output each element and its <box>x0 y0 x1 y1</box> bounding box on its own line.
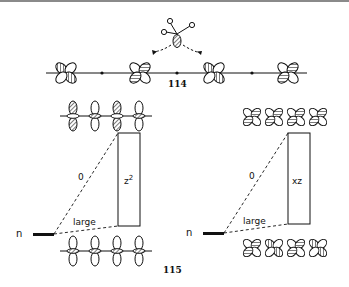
overlap-zero-right: 0 <box>249 172 255 181</box>
overlap-large-right: large <box>243 217 266 226</box>
overlap-zero-left: 0 <box>78 173 84 182</box>
ligand-fragment <box>161 18 194 47</box>
z2-orbital-row-top <box>60 101 152 131</box>
level-label-left: n <box>16 229 22 239</box>
n-level-left <box>33 233 54 236</box>
overlap-large-left: large <box>73 218 96 227</box>
figure-label-114: 114 <box>168 80 187 89</box>
xz-orbital-row-top <box>242 107 329 128</box>
box-label-z2-sup: 2 <box>129 174 133 182</box>
level-label-right: n <box>186 228 192 238</box>
box-label-xz: xz <box>292 177 302 186</box>
orbital-diagram <box>0 0 349 287</box>
xz-orbital-row-bottom <box>242 238 329 259</box>
n-level-right <box>203 232 224 235</box>
z2-orbital-row-bottom <box>60 236 152 266</box>
box-label-z2: z2 <box>124 175 133 186</box>
figure-label-115: 115 <box>163 266 182 275</box>
